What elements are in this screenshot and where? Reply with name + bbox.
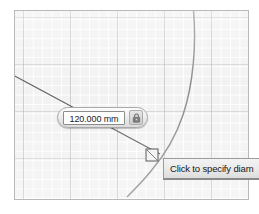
dimension-value-input[interactable]: 120.000 mm	[63, 111, 125, 125]
dimension-editor[interactable]: 120.000 mm	[57, 107, 148, 128]
lock-icon	[132, 113, 141, 123]
cad-sketch-viewport: 120.000 mm Click to specify diam	[0, 0, 259, 214]
status-tooltip: Click to specify diam	[163, 158, 259, 180]
lock-toggle-button[interactable]	[129, 110, 143, 125]
